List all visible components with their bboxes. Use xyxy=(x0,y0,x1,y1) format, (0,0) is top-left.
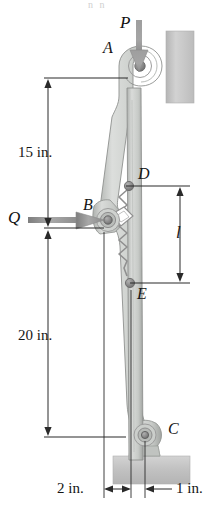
point-label-D: D xyxy=(138,166,150,182)
force-label-P: P xyxy=(120,14,130,31)
dimension-label-20in: 20 in. xyxy=(18,328,52,343)
vertical-guide-wall xyxy=(166,31,194,103)
dimension-label-1in: 1 in. xyxy=(176,481,203,496)
point-label-E: E xyxy=(137,286,147,302)
dimension-label-15in: 15 in. xyxy=(18,145,52,160)
point-label-A: A xyxy=(103,40,113,56)
dimension-label-l: l xyxy=(176,224,181,241)
force-label-Q: Q xyxy=(8,209,20,226)
dimension-20in xyxy=(44,230,126,437)
point-label-C: C xyxy=(168,421,179,437)
point-label-B: B xyxy=(83,197,93,213)
dimension-label-2in: 2 in. xyxy=(57,481,84,496)
engineering-diagram: n n xyxy=(0,0,222,514)
vertical-link xyxy=(127,88,143,460)
diagram-canvas xyxy=(0,0,222,514)
